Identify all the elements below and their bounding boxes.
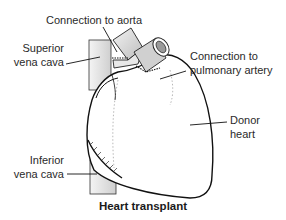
- heart-transplant-diagram: Connection to aorta Superior vena cava C…: [0, 0, 286, 220]
- label-inferior-vena-cava-line1: Inferior: [14, 154, 64, 167]
- label-connection-to-pa-line1: Connection to: [190, 50, 258, 63]
- label-donor-heart-line1: Donor: [230, 114, 260, 127]
- label-superior-vena-cava-line2: vena cava: [4, 56, 64, 69]
- label-connection-to-aorta: Connection to aorta: [46, 14, 142, 27]
- label-connection-to-pa-line2: pulmonary artery: [190, 64, 273, 77]
- label-donor-heart-line2: heart: [230, 128, 255, 141]
- label-inferior-vena-cava-line2: vena cava: [4, 168, 64, 181]
- diagram-title: Heart transplant: [0, 200, 286, 212]
- aorta-shape: [112, 28, 143, 68]
- heart-illustration: [0, 0, 286, 220]
- label-superior-vena-cava-line1: Superior: [14, 42, 64, 55]
